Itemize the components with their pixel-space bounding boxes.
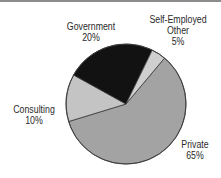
label-government: Government 20% — [62, 21, 120, 43]
label-consulting: Consulting 10% — [8, 104, 61, 126]
label-private-value: 65% — [179, 150, 211, 161]
label-consulting-value: 10% — [8, 115, 61, 126]
label-self-employed-line1: Self-Employed — [143, 14, 213, 25]
pie-slices — [66, 44, 186, 164]
label-self-employed-line2: Other — [143, 25, 213, 36]
label-private: Private 65% — [179, 139, 211, 161]
label-consulting-name: Consulting — [8, 104, 61, 115]
label-self-employed-other: Self-Employed Other 5% — [143, 14, 213, 47]
label-self-employed-value: 5% — [143, 36, 213, 47]
label-private-name: Private — [179, 139, 211, 150]
label-government-name: Government — [62, 21, 120, 32]
label-government-value: 20% — [62, 32, 120, 43]
